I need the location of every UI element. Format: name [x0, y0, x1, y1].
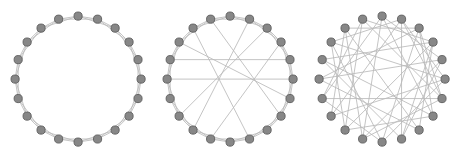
graph-node [415, 126, 423, 134]
graph-node [318, 94, 326, 102]
graph-node [93, 135, 101, 143]
graph-node [125, 112, 133, 120]
graph-node [245, 135, 253, 143]
graph-node [245, 15, 253, 23]
graph-node [226, 138, 234, 146]
graph-node [277, 38, 285, 46]
graph-edge-chord [211, 42, 281, 139]
graph-node [429, 112, 437, 120]
graph-svg-random [311, 8, 453, 150]
graph-panel-random [311, 8, 453, 150]
graph-node [263, 126, 271, 134]
graph-node [438, 94, 446, 102]
graph-node [54, 135, 62, 143]
graph-node [189, 24, 197, 32]
graph-node [441, 75, 449, 83]
graph-node [37, 126, 45, 134]
graph-node [166, 94, 174, 102]
graph-node [378, 138, 386, 146]
graph-node [327, 112, 335, 120]
graph-node [327, 38, 335, 46]
graph-node [134, 55, 142, 63]
graph-svg-small-world [159, 8, 301, 150]
graph-edge-chord [345, 42, 433, 130]
graph-node [415, 24, 423, 32]
graph-node [206, 135, 214, 143]
graph-node [429, 38, 437, 46]
graph-node [93, 15, 101, 23]
graph-panel-regular-lattice [7, 8, 149, 150]
graph-node [134, 94, 142, 102]
graph-node [277, 112, 285, 120]
graph-edge-chord [193, 28, 249, 139]
graph-node [358, 135, 366, 143]
graph-node [163, 75, 171, 83]
graph-node [397, 135, 405, 143]
graph-node [263, 24, 271, 32]
graph-node [189, 126, 197, 134]
graph-node [286, 55, 294, 63]
small-world-network-figure [0, 0, 462, 157]
graph-node [54, 15, 62, 23]
graph-edge-chord [401, 42, 432, 139]
graph-edge-chord [345, 28, 363, 139]
graph-node [166, 55, 174, 63]
graph-edge-chord [363, 16, 382, 139]
graph-node [111, 126, 119, 134]
graph-node [137, 75, 145, 83]
edge-layer [319, 16, 445, 142]
graph-edge-chord [193, 19, 249, 130]
graph-node [14, 55, 22, 63]
graph-node [315, 75, 323, 83]
graph-edge-chord [345, 28, 419, 130]
graph-panel-small-world [159, 8, 301, 150]
graph-node [378, 12, 386, 20]
graph-node [23, 112, 31, 120]
graph-edge-chord [179, 28, 267, 116]
graph-svg-regular-lattice [7, 8, 149, 150]
graph-node [175, 38, 183, 46]
graph-node [397, 15, 405, 23]
graph-node [206, 15, 214, 23]
graph-node [125, 38, 133, 46]
graph-node [358, 15, 366, 23]
graph-node [289, 75, 297, 83]
graph-node [318, 55, 326, 63]
graph-node [341, 24, 349, 32]
edge-layer [15, 16, 141, 142]
graph-node [341, 126, 349, 134]
graph-node [23, 38, 31, 46]
graph-node [14, 94, 22, 102]
graph-node [74, 138, 82, 146]
graph-node [438, 55, 446, 63]
graph-edge-chord [211, 19, 281, 116]
graph-node [286, 94, 294, 102]
graph-node [175, 112, 183, 120]
graph-node [111, 24, 119, 32]
graph-edge-chord [319, 79, 419, 130]
graph-node [11, 75, 19, 83]
graph-node [74, 12, 82, 20]
edge-layer [167, 16, 293, 142]
graph-node [226, 12, 234, 20]
graph-node [37, 24, 45, 32]
graph-edge-chord [179, 42, 290, 98]
node-layer [11, 12, 145, 146]
